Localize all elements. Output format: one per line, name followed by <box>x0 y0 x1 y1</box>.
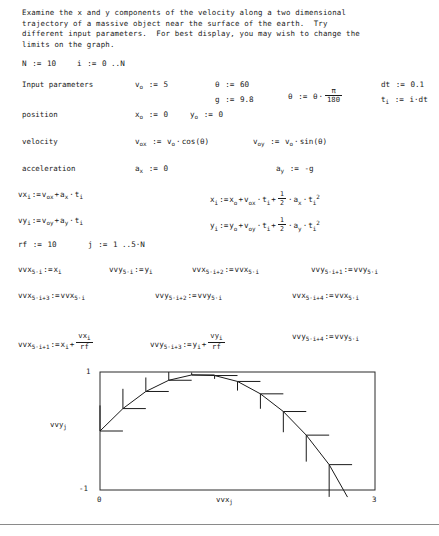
definition-rf-operator: := <box>32 240 43 249</box>
equation-vvy-5i-plus-2[interactable]: vvy5·i+2:=vvy5·i <box>155 291 222 301</box>
trajectory-plot[interactable]: 1 -1 0 3 vvyj vvxj <box>0 352 439 502</box>
equation-vx[interactable]: vxi:=vox+ax·ti <box>18 190 83 200</box>
definition-ax[interactable]: ax := 0 <box>135 164 168 174</box>
definition-rf[interactable]: rf := 10 <box>18 240 57 249</box>
equation-vvy-5i-plus-1[interactable]: vvy5·i+1:=vvy5·i <box>311 265 378 275</box>
definition-i-name: i <box>77 59 82 68</box>
definition-ay-subscript: y <box>281 168 285 174</box>
intro-paragraph: Examine the x and y components of the ve… <box>22 8 422 50</box>
y-axis-tick-max: 1 <box>86 367 90 376</box>
definition-i[interactable]: i := 0 ..N <box>77 59 125 68</box>
definition-x0-operator: := <box>148 110 159 119</box>
definition-y0-value: 0 <box>218 110 223 119</box>
definition-v0y-operator: := <box>269 137 280 146</box>
definition-theta-radians-name: θ <box>288 92 293 101</box>
definition-N-operator: := <box>31 59 42 68</box>
definition-theta-degrees-name: θ <box>215 80 220 89</box>
definition-x0-value: 0 <box>163 110 168 119</box>
definition-v0-operator: := <box>148 80 159 89</box>
equation-y[interactable]: yi:=yo+voy·ti+12·ay·ti2 <box>210 216 320 233</box>
definition-j[interactable]: j := 1 ..5·N <box>88 240 145 249</box>
definition-g-value: 9.8 <box>240 95 254 104</box>
y-axis-tick-min: -1 <box>79 484 88 493</box>
definition-i-operator: := <box>86 59 97 68</box>
definition-y0-subscript: o <box>195 114 199 120</box>
definition-v0x-subscript: ox <box>140 141 147 147</box>
definition-v0-value: 5 <box>163 80 168 89</box>
y-axis-label: vvyj <box>50 420 67 430</box>
equation-vvx-5i-plus-1[interactable]: vvx5·i+1:=xi+vxirf <box>18 332 94 351</box>
definition-v0x-value: cos(θ) <box>182 137 209 146</box>
definition-theta-degrees-value: 60 <box>240 80 249 89</box>
definition-v0-subscript: o <box>140 84 144 90</box>
definition-x0-subscript: o <box>140 114 144 120</box>
equation-vvy-5i[interactable]: vvy5·i:=yi <box>109 265 153 275</box>
pi-over-180-fraction: π180 <box>324 87 343 104</box>
definition-ay-value: -g <box>304 164 313 173</box>
definition-t-i-value: i·dt <box>409 95 427 104</box>
definition-theta-degrees[interactable]: θ := 60 <box>215 80 249 89</box>
position-label: position <box>22 110 58 119</box>
equation-vy[interactable]: vyi:=voy+ay·ti <box>18 216 83 226</box>
footer-divider <box>0 524 439 525</box>
definition-j-name: j <box>88 240 93 249</box>
definition-ay-operator: := <box>289 164 300 173</box>
x-axis-tick-min: 0 <box>97 495 101 504</box>
acceleration-label: acceleration <box>22 164 75 173</box>
input-parameters-label: Input parameters <box>22 80 93 89</box>
equation-vvy-5i-plus-3[interactable]: vvy5·i+3:=yi+vyirf <box>150 332 226 351</box>
definition-t-i[interactable]: ti := i·dt <box>381 95 428 105</box>
definition-dt[interactable]: dt := 0.1 <box>381 80 424 89</box>
definition-N-name: N <box>22 59 27 68</box>
definition-j-operator: := <box>97 240 108 249</box>
definition-N-value: 10 <box>47 59 56 68</box>
definition-t-i-operator: := <box>394 95 405 104</box>
definition-N[interactable]: N := 10 <box>22 59 56 68</box>
definition-rf-value: 10 <box>47 240 56 249</box>
one-eighty-denominator: 180 <box>325 95 342 104</box>
definition-y0[interactable]: yo := 0 <box>190 110 223 120</box>
definition-v0y-value: sin(θ) <box>300 137 327 146</box>
definition-rf-name: rf <box>18 240 27 249</box>
definition-theta-radians[interactable]: θ := θ·π180 <box>288 87 343 104</box>
definition-g-operator: := <box>224 95 235 104</box>
definition-y0-operator: := <box>203 110 214 119</box>
definition-theta-radians-operator: := <box>297 92 308 101</box>
mathcad-worksheet: Examine the x and y components of the ve… <box>0 0 439 536</box>
definition-ax-value: 0 <box>163 164 168 173</box>
equation-x[interactable]: xi:=xo+vox·ti+12·ax·ti2 <box>210 190 320 207</box>
definition-j-value: 1 ..5·N <box>113 240 145 249</box>
velocity-label: velocity <box>22 137 58 146</box>
equation-vvx-5i-plus-4[interactable]: vvx5·i+4:=vvx5·i <box>292 291 359 301</box>
definition-theta-degrees-operator: := <box>224 80 235 89</box>
definition-g-name: g <box>215 95 220 104</box>
definition-dt-name: dt <box>381 80 390 89</box>
definition-v0y-subscript: oy <box>258 141 265 147</box>
definition-ay[interactable]: ay := -g <box>276 164 314 174</box>
definition-v0x[interactable]: vox := vo·cos(θ) <box>135 137 209 147</box>
definition-v0y[interactable]: voy := vo·sin(θ) <box>253 137 327 147</box>
definition-v0x-operator: := <box>151 137 162 146</box>
equation-vvy-5i-plus-4[interactable]: vvy5·i+4:=vvy5·i <box>292 332 359 342</box>
definition-i-value: 0 ..N <box>102 59 125 68</box>
definition-ax-subscript: x <box>140 168 144 174</box>
pi-numerator: π <box>325 87 342 95</box>
definition-v0[interactable]: vo := 5 <box>135 80 168 90</box>
definition-t-i-subscript: i <box>386 99 390 105</box>
x-axis-tick-max: 3 <box>372 495 376 504</box>
x-axis-label: vvxj <box>216 495 233 505</box>
equation-vvx-5i-plus-3[interactable]: vvx5·i+3:=vvx5·i <box>18 291 85 301</box>
definition-g[interactable]: g := 9.8 <box>215 95 254 104</box>
definition-x0[interactable]: xo := 0 <box>135 110 168 120</box>
equation-vvx-5i-plus-2[interactable]: vvx5·i+2:=vvx5·i <box>192 265 259 275</box>
definition-dt-value: 0.1 <box>410 80 424 89</box>
definition-dt-operator: := <box>395 80 406 89</box>
definition-ax-operator: := <box>148 164 159 173</box>
equation-vvx-5i[interactable]: vvx5·i:=xi <box>18 265 62 275</box>
